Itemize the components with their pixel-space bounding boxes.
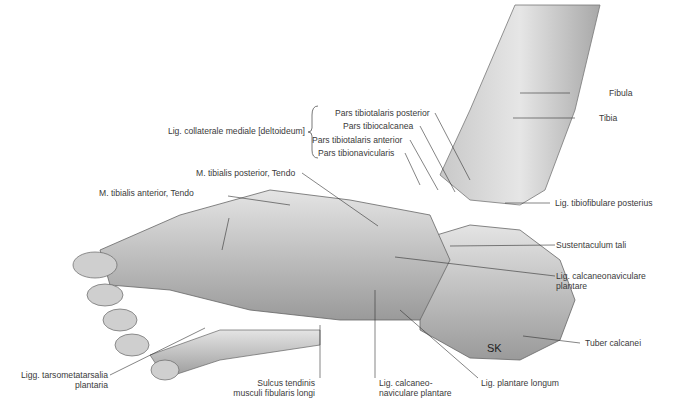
anatomy-figure: SK Lig. collaterale mediale [deltoideum]… [0,0,674,413]
label-tibia: Tibia [599,113,617,123]
label-lig-calcaneonaviculare-plantare-line1: Lig. calcaneonaviculare [556,271,646,281]
label-lig-calcaneo-naviculare-line2: naviculare plantare [379,388,452,398]
label-sulcus-tendinis-line1: Sulcus tendinis [215,378,315,388]
label-pars-tibiotalaris-posterior: Pars tibiotalaris posterior [335,108,430,118]
label-pars-tibionavicularis: Pars tibionavicularis [318,148,394,158]
label-sustentaculum-tali: Sustentaculum tali [556,240,626,250]
label-tuber-calcanei: Tuber calcanei [585,338,641,348]
label-ligg-tarsometatarsalia-line1: Ligg. tarsometatarsalia [15,370,108,380]
label-sulcus-tendinis-line2: musculi fibularis longi [215,388,315,398]
label-lig-plantare-longum: Lig. plantare longum [481,378,559,388]
label-fibula: Fibula [609,88,632,98]
label-m-tibialis-posterior: M. tibialis posterior, Tendo [196,168,295,178]
signature: SK [487,342,502,354]
label-lig-tibiofibulare-posterius: Lig. tibiofibulare posterius [555,198,652,208]
label-ligg-tarsometatarsalia-line2: plantaria [15,380,108,390]
label-lig-collaterale-mediale: Lig. collaterale mediale [deltoideum] [165,126,305,136]
label-lig-calcaneo-naviculare-line1: Lig. calcaneo- [379,378,433,388]
label-pars-tibiotalaris-anterior: Pars tibiotalaris anterior [312,135,402,145]
label-pars-tibiocalcanea: Pars tibiocalcanea [343,121,413,131]
label-lig-calcaneonaviculare-plantare-line2: plantare [556,281,587,291]
label-m-tibialis-anterior: M. tibialis anterior, Tendo [99,188,194,198]
